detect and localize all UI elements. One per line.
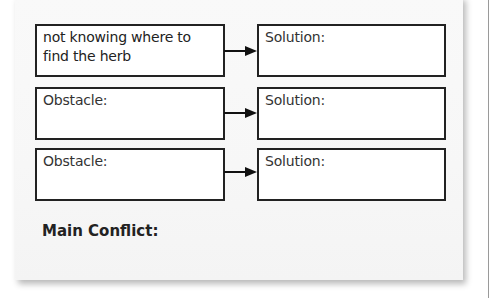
solution-label-3: Solution: [265, 153, 325, 169]
right-arrow-icon [224, 107, 257, 119]
right-arrow-icon [224, 166, 257, 178]
obstacle-box-2[interactable]: Obstacle: [35, 87, 225, 140]
obstacle-label-3: Obstacle: [43, 153, 107, 169]
main-conflict-label: Main Conflict: [42, 222, 158, 240]
solution-box-2[interactable]: Solution: [257, 87, 446, 140]
solution-box-1[interactable]: Solution: [257, 24, 446, 77]
obstacle-label-2: Obstacle: [43, 92, 107, 108]
solution-label-2: Solution: [265, 92, 325, 108]
obstacle-box-1[interactable]: not knowing where to find the herb [35, 24, 225, 77]
right-arrow-icon [224, 45, 257, 57]
obstacle-text-1: not knowing where to find the herb [43, 29, 191, 64]
solution-label-1: Solution: [265, 29, 325, 45]
solution-box-3[interactable]: Solution: [257, 148, 446, 201]
page-edge-divider [488, 0, 489, 298]
obstacle-box-3[interactable]: Obstacle: [35, 148, 225, 201]
